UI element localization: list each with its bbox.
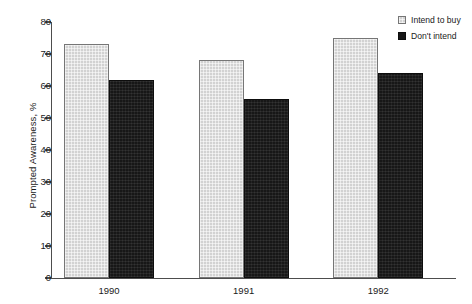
legend: Intend to buy Don't intend [398, 13, 472, 45]
y-axis-tick-label: 30 [27, 177, 51, 187]
y-axis-tick-label: 50 [27, 113, 51, 123]
y-axis-tick-label: 40 [27, 145, 51, 155]
y-axis-tick-label: 80 [27, 17, 51, 27]
x-axis-tick-label: 1990 [64, 285, 154, 296]
legend-label: Intend to buy [411, 15, 461, 25]
bar-1992-intend-to-buy [333, 38, 378, 278]
y-axis-tick-label: 10 [27, 241, 51, 251]
bar-1992-dont-intend [378, 73, 423, 278]
plot-area [52, 22, 456, 278]
x-axis-line [51, 278, 456, 279]
bar-chart: Prompted Awareness, % 01020304050607080 … [0, 0, 472, 304]
bar-1991-dont-intend [244, 99, 289, 278]
x-axis-tick-label: 1991 [199, 285, 289, 296]
legend-label: Don't intend [411, 31, 457, 41]
y-axis-tick-label: 0 [27, 273, 51, 283]
y-axis-tick-label: 70 [27, 49, 51, 59]
y-axis-tick-label: 20 [27, 209, 51, 219]
legend-item-dont-intend[interactable]: Don't intend [398, 29, 472, 42]
light-gray-swatch-icon [398, 16, 406, 24]
y-axis-tick-label: 60 [27, 81, 51, 91]
x-axis-tick-label: 1992 [333, 285, 423, 296]
bar-1991-intend-to-buy [199, 60, 244, 278]
legend-item-intend-to-buy[interactable]: Intend to buy [398, 13, 472, 26]
bar-1990-dont-intend [109, 80, 154, 278]
black-swatch-icon [398, 32, 406, 40]
bar-1990-intend-to-buy [64, 44, 109, 278]
y-axis-title: Prompted Awareness, % [27, 66, 38, 246]
